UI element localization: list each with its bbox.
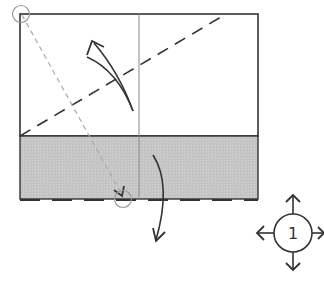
- rotate-symbol-icon: 1: [257, 195, 324, 270]
- step-number: 1: [288, 224, 298, 243]
- origami-diagram: 1: [0, 0, 324, 289]
